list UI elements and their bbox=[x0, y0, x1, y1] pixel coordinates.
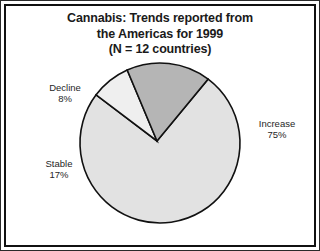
pie-label-increase: Increase 75% bbox=[242, 118, 312, 140]
pie-label-decline-value: 8% bbox=[34, 93, 96, 104]
chart-figure: Cannabis: Trends reported from the Ameri… bbox=[0, 0, 320, 251]
pie-label-increase-name: Increase bbox=[242, 118, 312, 129]
pie-label-decline-name: Decline bbox=[34, 82, 96, 93]
pie-label-stable: Stable 17% bbox=[28, 158, 90, 180]
pie-label-stable-name: Stable bbox=[28, 158, 90, 169]
plot-area: Cannabis: Trends reported from the Ameri… bbox=[6, 6, 314, 245]
pie-label-stable-value: 17% bbox=[28, 169, 90, 180]
pie-label-increase-value: 75% bbox=[242, 129, 312, 140]
pie-label-decline: Decline 8% bbox=[34, 82, 96, 104]
